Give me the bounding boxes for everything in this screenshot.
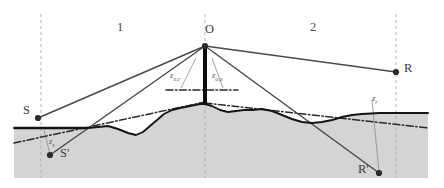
z-s-sub: s <box>52 141 54 148</box>
z-o-r-label: zo,r <box>170 71 180 82</box>
ray-O-to-R <box>205 46 396 72</box>
z-o-r-sub: o,r <box>173 75 180 82</box>
z-r-sub: r <box>375 98 377 105</box>
marker-R-prime <box>376 170 382 176</box>
region-2-label: 2 <box>310 21 316 34</box>
z-o-s-sub: o,s <box>215 75 222 82</box>
marker-S-prime <box>47 152 53 158</box>
marker-S <box>35 115 41 121</box>
geometry-figure: 1 2 O S S' R R' zo,r zo,s zs zr <box>0 0 444 188</box>
point-R-label: R <box>404 62 412 75</box>
point-R-prime-label: R' <box>358 163 369 176</box>
marker-R <box>393 69 399 75</box>
region-1-label: 1 <box>117 21 123 34</box>
point-O-label: O <box>205 23 214 36</box>
point-S-prime-label: S' <box>60 147 69 160</box>
marker-O <box>202 43 208 49</box>
leader-z-o-r <box>181 58 196 88</box>
point-S-label: S <box>23 104 30 117</box>
z-o-s-label: zo,s <box>212 71 222 82</box>
z-r-label: zr <box>372 94 378 105</box>
z-s-label: zs <box>49 137 55 148</box>
